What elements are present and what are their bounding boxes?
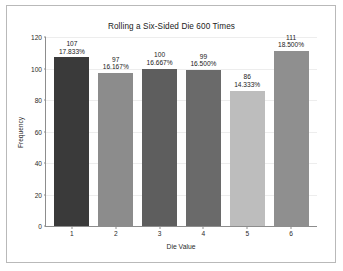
bar-count-label: 100 <box>147 51 173 59</box>
chart-figure: Rolling a Six-Sided Die 600 Times Freque… <box>0 0 343 271</box>
y-axis-title: Frequency <box>16 37 26 227</box>
bar-value-labels: 9716.167% <box>103 56 129 72</box>
x-tick-label: 4 <box>202 230 206 237</box>
bar[interactable]: 9916.500% <box>186 70 221 226</box>
bar-percent-label: 14.333% <box>234 81 260 89</box>
bar-percent-label: 17.833% <box>59 48 85 56</box>
bar-value-labels: 8614.333% <box>234 73 260 89</box>
bar-slot: 11118.500%6 <box>269 37 313 226</box>
x-tick-label: 6 <box>289 230 293 237</box>
x-tick-label: 1 <box>70 230 74 237</box>
bar-count-label: 107 <box>59 40 85 48</box>
x-tick-mark <box>247 226 248 229</box>
y-tick-label: 40 <box>35 160 42 167</box>
y-tick-label: 0 <box>38 223 42 230</box>
bar-percent-label: 16.500% <box>190 60 216 68</box>
bar[interactable]: 11118.500% <box>274 51 309 226</box>
bar-value-labels: 10717.833% <box>59 40 85 56</box>
x-tick-mark <box>203 226 204 229</box>
bar[interactable]: 10016.667% <box>142 69 177 227</box>
x-tick-mark <box>115 226 116 229</box>
x-tick-label: 5 <box>245 230 249 237</box>
bar-percent-label: 16.667% <box>147 59 173 67</box>
x-axis-title: Die Value <box>45 243 317 250</box>
bar-slot: 10016.667%3 <box>138 37 182 226</box>
chart-title: Rolling a Six-Sided Die 600 Times <box>0 22 343 31</box>
y-axis-title-text: Frequency <box>18 116 25 147</box>
y-tick-label: 80 <box>35 97 42 104</box>
bar-percent-label: 18.500% <box>278 41 304 49</box>
bar-slot: 10717.833%1 <box>50 37 94 226</box>
y-tick-label: 120 <box>31 34 42 41</box>
bar-count-label: 97 <box>103 56 129 64</box>
y-tick-label: 60 <box>35 128 42 135</box>
bar-value-labels: 10016.667% <box>147 51 173 67</box>
bar[interactable]: 10717.833% <box>54 57 89 226</box>
x-tick-mark <box>291 226 292 229</box>
bar[interactable]: 8614.333% <box>230 91 265 226</box>
plot-area: 020406080100120 10717.833%19716.167%2100… <box>45 37 317 227</box>
bar-percent-label: 16.167% <box>103 63 129 71</box>
bar-value-labels: 9916.500% <box>190 53 216 69</box>
x-tick-label: 2 <box>114 230 118 237</box>
bar-count-label: 99 <box>190 53 216 61</box>
bar-slot: 9916.500%4 <box>181 37 225 226</box>
bar-slot: 8614.333%5 <box>225 37 269 226</box>
y-tick-label: 100 <box>31 65 42 72</box>
y-tick-label: 20 <box>35 191 42 198</box>
bar-slot: 9716.167%2 <box>94 37 138 226</box>
x-tick-mark <box>71 226 72 229</box>
bar[interactable]: 9716.167% <box>98 73 133 226</box>
x-tick-label: 3 <box>158 230 162 237</box>
bar-series: 10717.833%19716.167%210016.667%39916.500… <box>46 37 317 226</box>
bar-count-label: 111 <box>278 34 304 42</box>
x-tick-mark <box>159 226 160 229</box>
bar-count-label: 86 <box>234 73 260 81</box>
bar-value-labels: 11118.500% <box>278 34 304 50</box>
